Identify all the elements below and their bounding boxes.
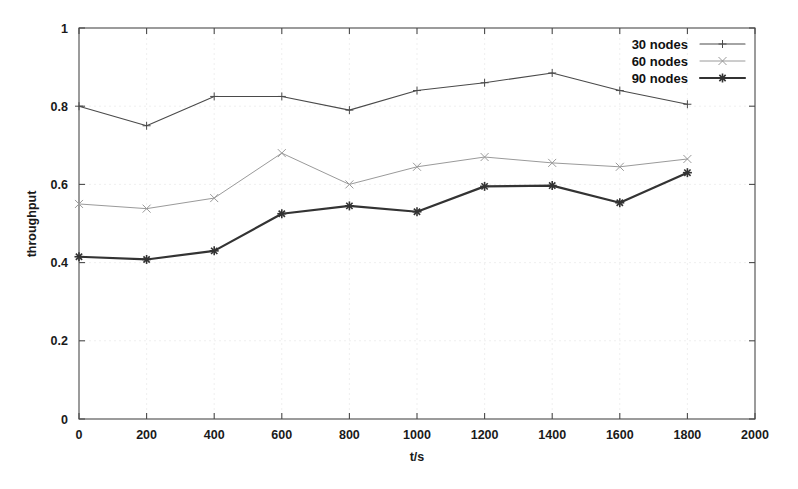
chart-figure: 0200400600800100012001400160018002000 00… [0, 0, 798, 489]
series-markers [75, 168, 692, 264]
x-tick-label: 0 [76, 428, 83, 442]
x-tick-label: 1000 [403, 428, 431, 442]
series-markers [75, 149, 691, 213]
series-line [79, 153, 687, 209]
data-series [75, 168, 692, 264]
y-axis-title: throughput [25, 190, 39, 257]
y-tick-label: 0.6 [51, 178, 68, 192]
x-axis-title: t/s [410, 450, 425, 464]
legend-label: 90 nodes [632, 71, 688, 86]
x-tick-label: 1600 [606, 428, 634, 442]
series-line [79, 73, 687, 126]
y-tick-label: 0 [61, 413, 68, 427]
legend-sample-marker [718, 74, 727, 83]
line-chart: 0200400600800100012001400160018002000 00… [0, 0, 798, 489]
y-axis-tick-labels: 00.20.40.60.81 [51, 22, 68, 427]
data-series-group [75, 69, 692, 264]
series-line [79, 173, 687, 260]
data-series [75, 69, 691, 130]
series-markers [75, 69, 691, 130]
y-tick-label: 0.2 [51, 334, 68, 348]
chart-legend: 30 nodes60 nodes90 nodes [632, 37, 745, 86]
x-tick-label: 400 [204, 428, 225, 442]
x-tick-label: 600 [271, 428, 292, 442]
x-tick-label: 200 [136, 428, 157, 442]
x-tick-label: 1800 [673, 428, 701, 442]
y-tick-label: 0.4 [51, 256, 68, 270]
x-tick-label: 1400 [538, 428, 566, 442]
legend-label: 60 nodes [632, 54, 688, 69]
legend-label: 30 nodes [632, 37, 688, 52]
legend-sample-marker [719, 40, 727, 48]
x-tick-label: 800 [339, 428, 360, 442]
x-tick-label: 1200 [471, 428, 499, 442]
x-axis-tick-labels: 0200400600800100012001400160018002000 [76, 428, 769, 442]
x-tick-label: 2000 [741, 428, 769, 442]
y-tick-label: 0.8 [51, 100, 68, 114]
y-tick-label: 1 [61, 22, 68, 36]
data-series [75, 149, 691, 213]
